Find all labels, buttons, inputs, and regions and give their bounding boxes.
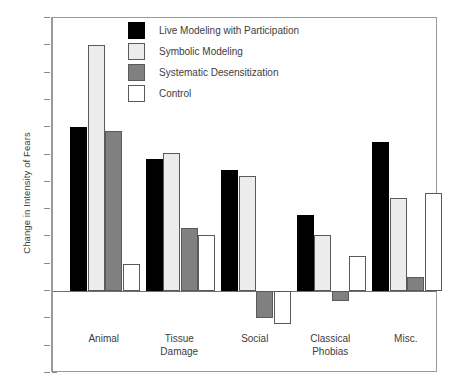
x-axis-category-label-line: Misc.: [361, 332, 451, 345]
bar: [390, 198, 407, 291]
x-axis-category-label-line: Damage: [134, 345, 224, 358]
bar: [297, 215, 314, 291]
legend: Live Modeling with ParticipationSymbolic…: [128, 20, 299, 104]
bar: [274, 291, 291, 324]
legend-swatch: [128, 22, 145, 39]
y-axis-tick-mark: [44, 17, 50, 18]
legend-swatch: [128, 43, 145, 60]
legend-item: Live Modeling with Participation: [128, 20, 299, 41]
bar: [372, 142, 389, 291]
y-axis-tick-mark: [44, 208, 50, 209]
legend-label: Systematic Desensitization: [159, 67, 279, 78]
bar: [105, 131, 122, 291]
legend-swatch: [128, 64, 145, 81]
y-axis-tick-mark-inner: [52, 372, 57, 373]
bar: [123, 264, 140, 291]
y-axis-title: Change in Intensity of Fears: [18, 0, 36, 386]
bar: [70, 127, 87, 291]
bar: [181, 228, 198, 291]
y-axis-tick-mark: [44, 263, 50, 264]
y-axis-tick-mark: [44, 372, 50, 373]
legend-label: Control: [159, 88, 191, 99]
bar: [221, 170, 238, 292]
bar: [425, 193, 442, 291]
bar: [198, 235, 215, 291]
x-axis-category-label: Misc.: [361, 332, 451, 345]
y-axis-tick-mark: [44, 290, 50, 291]
zero-baseline: [53, 291, 436, 292]
bar: [332, 291, 349, 301]
bar: [349, 256, 366, 292]
bar: [88, 45, 105, 291]
y-axis-tick-mark: [44, 317, 50, 318]
legend-label: Symbolic Modeling: [159, 46, 243, 57]
bar: [407, 277, 424, 291]
y-axis-tick-mark: [44, 72, 50, 73]
x-axis-category-label-line: Phobias: [285, 345, 375, 358]
legend-item: Systematic Desensitization: [128, 62, 299, 83]
y-axis-tick-mark: [44, 99, 50, 100]
legend-item: Symbolic Modeling: [128, 41, 299, 62]
y-axis-tick-mark: [44, 44, 50, 45]
bar: [146, 159, 163, 291]
y-axis-tick-mark: [44, 154, 50, 155]
bar-chart: Change in Intensity of Fears −10−9−8−7−6…: [0, 0, 452, 386]
y-axis-tick-mark: [44, 345, 50, 346]
y-axis-tick-mark: [44, 181, 50, 182]
bar: [256, 291, 273, 318]
legend-item: Control: [128, 83, 299, 104]
bar: [239, 176, 256, 291]
bar: [163, 153, 180, 291]
y-axis-tick-mark: [44, 126, 50, 127]
y-axis-tick-mark: [44, 235, 50, 236]
legend-swatch: [128, 85, 145, 102]
bar: [314, 235, 331, 291]
legend-label: Live Modeling with Participation: [159, 25, 299, 36]
